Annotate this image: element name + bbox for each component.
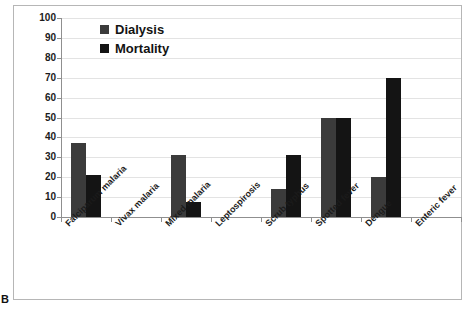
x-axis-category-labels: Falciparum malariaVivax malariaMixed mal… xyxy=(61,222,461,307)
y-tick-mark xyxy=(57,137,61,138)
y-tick-label: 20 xyxy=(30,172,56,182)
chart-legend: Dialysis Mortality xyxy=(100,20,169,58)
mortality-swatch-icon xyxy=(100,44,109,53)
y-tick-mark xyxy=(57,197,61,198)
y-tick-mark xyxy=(57,157,61,158)
dialysis-swatch-icon xyxy=(100,25,109,34)
gridline xyxy=(61,18,461,19)
y-axis-line xyxy=(61,18,62,217)
y-axis-tick-labels: 1009080706050403020100 xyxy=(28,18,56,217)
panel-letter-label: B xyxy=(1,293,9,305)
chart-frame: 1009080706050403020100 Dialysis Mortalit… xyxy=(13,5,462,300)
x-tick-mark xyxy=(461,217,462,222)
y-tick-mark xyxy=(57,58,61,59)
gridline xyxy=(61,137,461,138)
y-tick-mark xyxy=(57,177,61,178)
y-tick-label: 100 xyxy=(30,13,56,23)
y-tick-label: 0 xyxy=(30,212,56,222)
gridline xyxy=(61,118,461,119)
gridline xyxy=(61,78,461,79)
y-tick-label: 80 xyxy=(30,53,56,63)
gridline xyxy=(61,98,461,99)
legend-label-mortality: Mortality xyxy=(115,42,169,55)
figure-panel-b: 1009080706050403020100 Dialysis Mortalit… xyxy=(0,0,469,317)
y-tick-label: 30 xyxy=(30,152,56,162)
bar-mortality-dengue xyxy=(386,78,401,217)
y-tick-label: 70 xyxy=(30,73,56,83)
legend-item-mortality: Mortality xyxy=(100,39,169,58)
y-tick-label: 50 xyxy=(30,113,56,123)
y-tick-mark xyxy=(57,18,61,19)
y-tick-mark xyxy=(57,118,61,119)
y-tick-label: 40 xyxy=(30,132,56,142)
gridline xyxy=(61,197,461,198)
y-tick-mark xyxy=(57,78,61,79)
legend-item-dialysis: Dialysis xyxy=(100,20,169,39)
y-tick-mark xyxy=(57,98,61,99)
legend-label-dialysis: Dialysis xyxy=(115,23,164,36)
y-tick-label: 60 xyxy=(30,93,56,103)
gridline xyxy=(61,157,461,158)
y-tick-label: 90 xyxy=(30,33,56,43)
y-tick-mark xyxy=(57,38,61,39)
y-tick-label: 10 xyxy=(30,192,56,202)
